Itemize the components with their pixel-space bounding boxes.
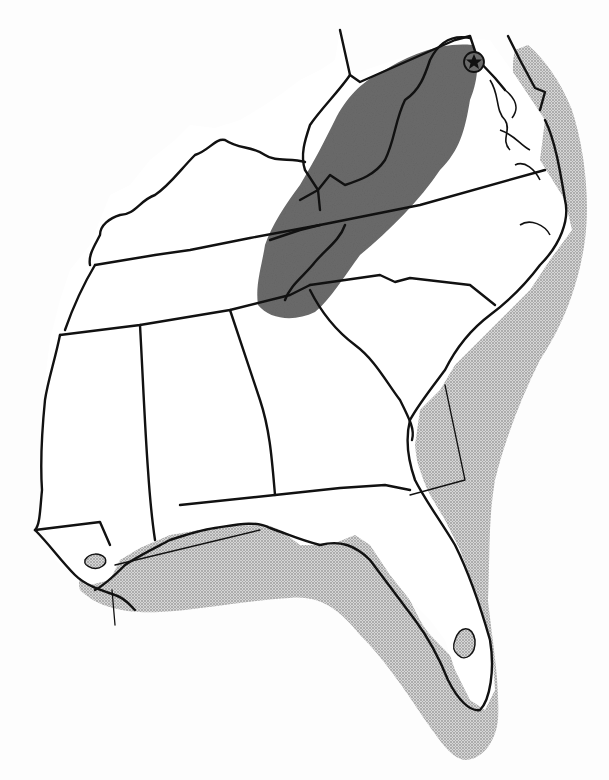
star-in-circle-icon — [464, 52, 484, 72]
map-canvas — [0, 0, 609, 780]
lake-pontchartrain — [85, 554, 106, 568]
range-map — [0, 0, 609, 780]
